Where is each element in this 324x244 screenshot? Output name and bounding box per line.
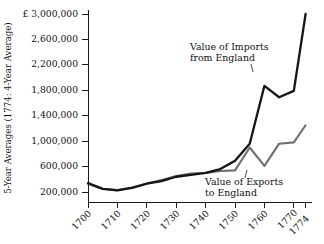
imports-annotation-line2: from England	[190, 52, 255, 63]
x-tick-label-1700: 1700	[69, 208, 93, 232]
line-chart: 5-Year Averages (1774: 4-Year Average) £…	[0, 0, 324, 244]
y-tick-label-2600000: 2,600,000	[31, 33, 78, 44]
imports-leader-line	[251, 64, 253, 72]
y-tick-label-600000: 600,000	[40, 160, 78, 171]
exports-annotation-line2: to England	[205, 187, 257, 198]
x-tick-label-1710: 1710	[98, 208, 122, 232]
x-tick-label-1730: 1730	[157, 208, 181, 232]
y-axis-title: 5-Year Averages (1774: 4-Year Average)	[3, 22, 13, 193]
x-tick-label-1750: 1750	[216, 208, 240, 232]
x-axis-ticks	[88, 202, 306, 208]
y-tick-label-2200000: 2,200,000	[31, 58, 78, 69]
x-tick-label-1760: 1760	[245, 208, 269, 232]
x-tick-label-1720: 1720	[128, 208, 152, 232]
x-tick-label-1740: 1740	[187, 208, 211, 232]
imports-annotation-line1: Value of Imports	[189, 41, 269, 52]
y-tick-label-1000000: 1,000,000	[31, 135, 78, 146]
y-tick-label-3000000: £ 3,000,000	[22, 8, 78, 19]
exports-annotation-line1: Value of Exports	[204, 176, 283, 187]
y-axis-ticks	[82, 14, 88, 192]
y-tick-label-1400000: 1,400,000	[31, 109, 78, 120]
y-tick-label-200000: 200,000	[40, 186, 78, 197]
y-tick-label-1800000: 1,800,000	[31, 84, 78, 95]
chart-container: 5-Year Averages (1774: 4-Year Average) £…	[0, 0, 324, 244]
